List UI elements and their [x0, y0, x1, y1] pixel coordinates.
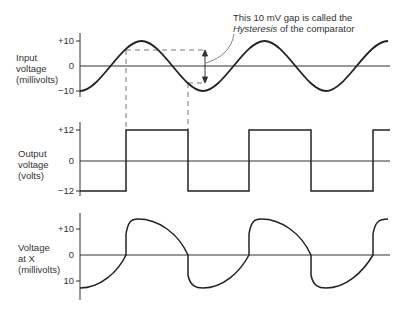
voltage-at-x-wave	[80, 219, 388, 288]
hysteresis-annotation: This 10 mV gap is called the Hysteresis …	[233, 12, 354, 34]
input-tick-plus10: +10	[44, 35, 74, 46]
x-tick-10: 10	[44, 275, 74, 286]
threshold-guides	[126, 50, 205, 130]
annotation-hysteresis-word: Hysteresis	[233, 23, 277, 34]
annotation-line-2-rest: of the comparator	[277, 23, 354, 34]
output-tick-0: 0	[44, 155, 74, 166]
annotation-line-1: This 10 mV gap is called the	[233, 12, 354, 23]
x-tick-plus10: +10	[44, 223, 74, 234]
x-tick-0: 0	[44, 249, 74, 260]
output-tick-minus12: −12	[44, 185, 74, 196]
output-tick-plus12: +12	[44, 124, 74, 135]
input-tick-0: 0	[44, 60, 74, 71]
annotation-leader	[206, 34, 234, 63]
input-tick-minus10: −10	[44, 85, 74, 96]
